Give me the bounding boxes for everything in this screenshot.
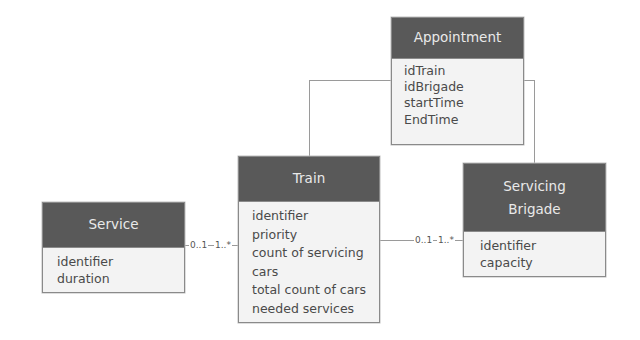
class-servicing-brigade-attributes: identifier capacity xyxy=(464,232,605,271)
attribute: identifier xyxy=(252,207,379,226)
multiplicity-service-side: 0..1 xyxy=(189,240,208,250)
class-appointment-header: Appointment xyxy=(392,18,523,59)
class-servicing-brigade-name-line1: Servicing xyxy=(503,175,565,198)
class-service-header: Service xyxy=(43,203,184,248)
attribute: EndTime xyxy=(404,112,523,128)
class-train[interactable]: Train identifier priority count of servi… xyxy=(238,156,380,323)
connector-appointment-brigade-vertical xyxy=(534,80,535,164)
class-service-name: Service xyxy=(89,216,139,234)
attribute: capacity xyxy=(480,254,605,271)
connector-appointment-train-vertical xyxy=(309,80,310,157)
class-train-header: Train xyxy=(239,157,379,202)
class-appointment[interactable]: Appointment idTrain idBrigade startTime … xyxy=(391,17,524,145)
attribute: identifier xyxy=(480,237,605,254)
attribute: needed services xyxy=(252,300,379,319)
class-train-attributes: identifier priority count of servicing c… xyxy=(239,202,379,319)
multiplicity-train-side-service: 1..* xyxy=(214,240,232,250)
connector-appointment-train-horizontal xyxy=(309,80,391,81)
uml-diagram-canvas: 0..1 1..* 0..1 1..* Appointment idTrain … xyxy=(0,0,640,340)
attribute: count of servicing xyxy=(252,244,379,263)
class-servicing-brigade-name-line2: Brigade xyxy=(508,198,560,221)
attribute: idTrain xyxy=(404,63,523,79)
attribute: identifier xyxy=(57,253,184,270)
attribute: cars xyxy=(252,263,379,282)
attribute: total count of cars xyxy=(252,281,379,300)
class-servicing-brigade-header: Servicing Brigade xyxy=(464,164,605,232)
attribute: startTime xyxy=(404,95,523,111)
class-service[interactable]: Service identifier duration xyxy=(42,202,185,293)
class-appointment-attributes: idTrain idBrigade startTime EndTime xyxy=(392,59,523,128)
attribute: idBrigade xyxy=(404,79,523,95)
class-service-attributes: identifier duration xyxy=(43,248,184,287)
multiplicity-train-side-brigade: 0..1 xyxy=(414,235,433,245)
class-servicing-brigade[interactable]: Servicing Brigade identifier capacity xyxy=(463,163,606,277)
attribute: duration xyxy=(57,270,184,287)
class-train-name: Train xyxy=(293,170,325,188)
class-appointment-name: Appointment xyxy=(414,29,502,47)
multiplicity-brigade-side: 1..* xyxy=(437,235,455,245)
attribute: priority xyxy=(252,226,379,245)
